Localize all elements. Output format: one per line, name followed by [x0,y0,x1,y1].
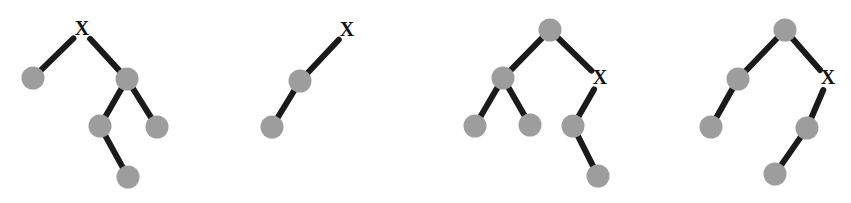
tree-3-node-x-child [562,115,585,138]
tree-4-node-left-leaf [700,116,723,139]
tree-3-node-root [539,19,562,42]
tree-3-node-left-leaf-a [464,115,487,138]
tree-3-node-bottom [587,165,610,188]
tree-3-node-right-x: X [593,66,608,88]
tree-4-node-right-x: X [821,66,836,88]
tree-1-node-right [116,68,139,91]
tree-1-node-bottom [117,166,140,189]
tree-2-node-root-x: X [340,18,355,40]
tree-2-node-bottom [261,116,284,139]
tree-figure-container: XXXX [0,0,851,203]
tree-4-node-bottom [764,163,787,186]
tree-1-node-left-leaf [22,67,45,90]
tree-4-node-x-child [796,117,819,140]
tree-3-node-left-leaf-b [519,114,542,137]
tree-diagram-svg: XXXX [0,0,851,203]
tree-1-node-mid-left [89,115,112,138]
tree-1-node-root-x: X [75,17,90,39]
tree-4-node-root [774,19,797,42]
tree-1-node-mid-right [146,116,169,139]
tree-3-node-left [492,67,515,90]
tree-2-node-middle [289,70,312,93]
tree-4-node-left [727,68,750,91]
